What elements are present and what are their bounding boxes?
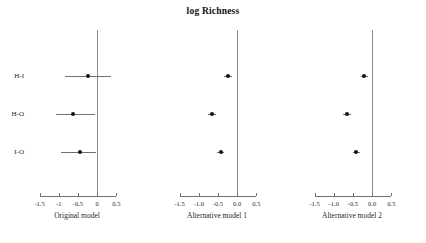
axis-line [40,196,117,197]
axis-tick-label: -0.5 [348,200,358,207]
panel-caption: Alternative model 1 [170,211,264,220]
axis-tick [218,193,219,196]
point-estimate-marker [219,150,223,154]
forest-plot-figure: log Richness H-IH-OI-O-1.5-1-0.500.5Orig… [0,0,426,243]
axis-tick [59,193,60,196]
point-estimate-marker [362,74,366,78]
plot-area [170,26,264,196]
panel-2: -1.5-1.0-0.50.00.5Alternative model 1 [170,26,264,236]
point-estimate-marker [78,150,82,154]
axis-tick [116,193,117,196]
axis-tick [97,193,98,196]
axis-tick-label: -1.5 [34,200,44,207]
axis-tick-label: -1.5 [309,200,319,207]
axis-tick [256,193,257,196]
axis-tick-label: -1.0 [194,200,204,207]
confidence-interval-bar [56,114,96,115]
axis-tick [199,193,200,196]
category-label-h-o: H-O [12,110,24,118]
panel-caption: Alternative model 2 [305,211,399,220]
point-estimate-marker [71,112,75,116]
zero-reference-line [237,30,238,196]
category-label-i-o: I-O [14,148,24,156]
axis-tick-label: -0.5 [213,200,223,207]
axis-tick-label: -0.5 [73,200,83,207]
axis-tick [315,193,316,196]
axis-tick [180,193,181,196]
axis-tick-label: -1.5 [174,200,184,207]
x-axis: -1.5-1.0-0.50.00.5Alternative model 2 [305,196,399,236]
axis-line [180,196,257,197]
panel-container: H-IH-OI-O-1.5-1-0.500.5Original model-1.… [0,26,426,236]
axis-tick-label: 0.5 [387,200,395,207]
axis-tick-label: 0.5 [252,200,260,207]
point-estimate-marker [210,112,214,116]
point-estimate-marker [226,74,230,78]
axis-tick [391,193,392,196]
axis-tick [334,193,335,196]
axis-tick [372,193,373,196]
point-estimate-marker [86,74,90,78]
panel-caption: Original model [30,211,124,220]
x-axis: -1.5-1.0-0.50.00.5Alternative model 1 [170,196,264,236]
axis-tick [78,193,79,196]
axis-tick-label: 0 [96,200,99,207]
panel-3: -1.5-1.0-0.50.00.5Alternative model 2 [305,26,399,236]
zero-reference-line [97,30,98,196]
zero-reference-line [372,30,373,196]
panel-1: H-IH-OI-O-1.5-1-0.500.5Original model [30,26,124,236]
x-axis: -1.5-1-0.500.5Original model [30,196,124,236]
axis-tick-label: -1 [56,200,61,207]
axis-tick [237,193,238,196]
point-estimate-marker [345,112,349,116]
plot-area: H-IH-OI-O [30,26,124,196]
axis-tick-label: 0.0 [368,200,376,207]
point-estimate-marker [354,150,358,154]
figure-title: log Richness [0,6,426,16]
axis-tick [40,193,41,196]
axis-tick-label: 0.0 [233,200,241,207]
axis-tick [353,193,354,196]
category-label-h-i: H-I [14,72,24,80]
axis-tick-label: 0.5 [112,200,120,207]
axis-tick-label: -1.0 [329,200,339,207]
axis-line [315,196,392,197]
plot-area [305,26,399,196]
